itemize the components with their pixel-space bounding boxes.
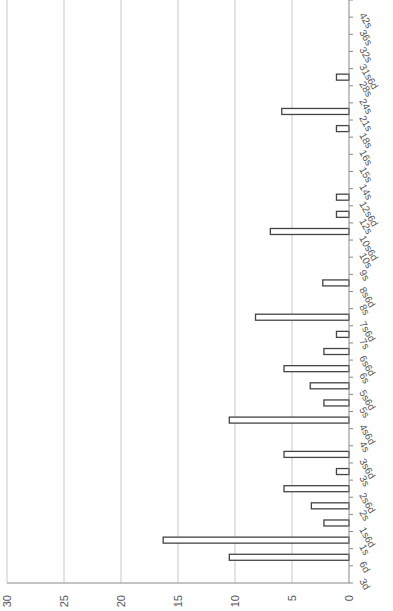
bar-8s6d	[323, 280, 349, 286]
bars	[163, 74, 349, 560]
bar-7s	[336, 331, 349, 337]
category-axis	[349, 0, 353, 583]
category-labels: 3d6d1s1s6d2s2s6d3s3s6d4s4s6d5s5s6d6s6s6d…	[357, 11, 380, 592]
bar-10s6d	[270, 228, 349, 234]
axis-title-fragment	[175, 604, 177, 606]
value-tick-label: 10	[229, 595, 241, 607]
bar-6d	[229, 554, 349, 560]
category-label: 36s	[357, 28, 375, 47]
value-tick-label: 0	[343, 595, 355, 601]
bar-12s	[336, 211, 349, 217]
bar-12s6d	[336, 194, 349, 200]
bar-2s6d	[284, 486, 349, 492]
bar-7s6d	[256, 314, 349, 320]
bar-1s	[163, 537, 349, 543]
bar-2s	[311, 503, 349, 509]
value-tick-label: 25	[58, 595, 70, 607]
bar-21s	[282, 108, 349, 114]
category-label: 42s	[357, 11, 375, 30]
bar-5s6d	[310, 383, 349, 389]
bar-chart: 051015202530 3d6d1s1s6d2s2s6d3s3s6d4s4s6…	[0, 0, 393, 611]
gridlines	[7, 0, 292, 583]
value-axis: 051015202530	[1, 583, 355, 607]
category-label: 18s	[357, 131, 375, 150]
bar-6s6d	[324, 349, 349, 355]
category-label: 21s	[357, 114, 375, 133]
bar-28s	[336, 74, 349, 80]
bar-5s	[324, 400, 349, 406]
bar-3s6d	[284, 451, 349, 457]
category-label: 14s	[357, 182, 375, 201]
category-label: 16s	[357, 148, 375, 167]
category-label: 24s	[357, 96, 375, 115]
category-label: 15s	[357, 165, 375, 184]
category-label: 3d	[357, 577, 372, 592]
value-tick-label: 15	[172, 595, 184, 607]
category-label: 32s	[357, 45, 375, 64]
bar-6s	[284, 366, 349, 372]
bar-18s	[336, 126, 349, 132]
value-tick-label: 5	[286, 595, 298, 601]
bar-1s6d	[324, 520, 349, 526]
bar-3s	[336, 469, 349, 475]
category-label: 9s	[357, 268, 372, 283]
bar-4s6d	[229, 417, 349, 423]
value-tick-label: 30	[1, 595, 13, 607]
value-tick-label: 20	[115, 595, 127, 607]
category-label: 6d	[357, 559, 372, 574]
